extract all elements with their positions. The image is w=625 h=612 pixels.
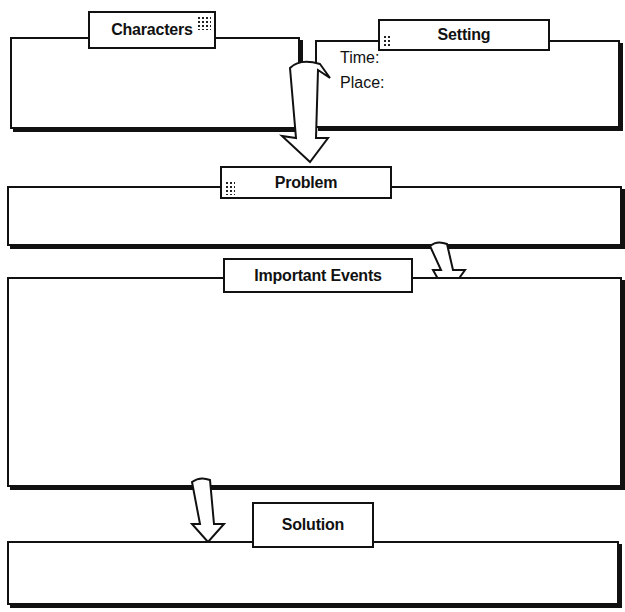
solution-label-text: Solution (282, 516, 344, 534)
important-events-box[interactable] (7, 277, 622, 487)
down-arrow-icon (188, 476, 233, 546)
solution-box[interactable] (7, 541, 619, 605)
dotted-corner-icon (383, 35, 391, 47)
dotted-corner-icon (225, 181, 235, 195)
characters-label-text: Characters (111, 21, 193, 39)
problem-label-text: Problem (275, 174, 338, 192)
problem-label: Problem (220, 166, 392, 199)
setting-label: Setting (378, 19, 550, 51)
setting-label-text: Setting (438, 26, 491, 44)
characters-box[interactable] (10, 37, 300, 129)
down-arrow-icon (280, 58, 350, 168)
important-events-label: Important Events (223, 258, 413, 293)
characters-label: Characters (88, 11, 216, 49)
solution-label: Solution (252, 502, 374, 548)
dotted-corner-icon (197, 16, 211, 30)
important-events-label-text: Important Events (254, 267, 382, 285)
